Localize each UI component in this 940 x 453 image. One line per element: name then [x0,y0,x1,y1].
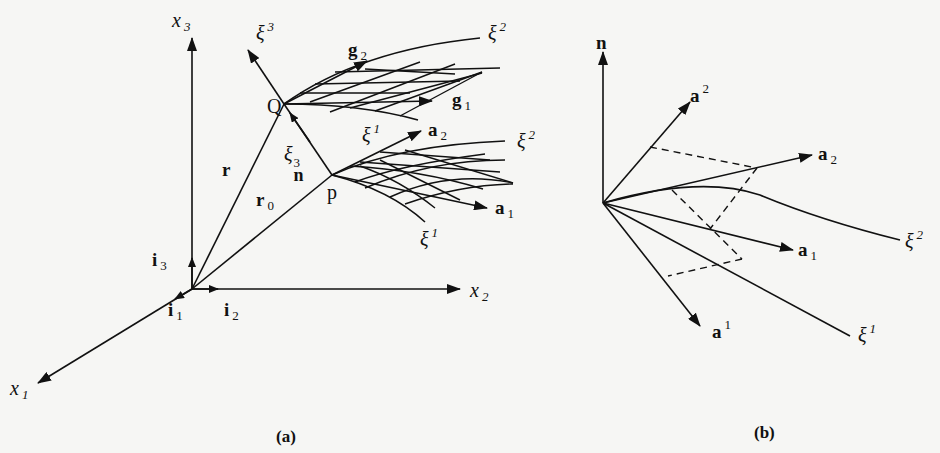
label-xi2-lower: ξ2 [517,128,535,151]
upper-xi1-edge [284,104,418,120]
point-p: p [327,182,337,202]
point-Q: Q [267,96,281,116]
label-xi3: ξ3 [256,20,274,43]
unit-vector-i1 [175,289,192,299]
b-vector-a-sup1 [603,203,700,326]
b-vector-a1 [603,203,793,250]
label-x2: x2 [470,280,488,303]
normal-vector-n [290,113,310,142]
label-i1: i1 [168,300,183,322]
label-xi2-upper: ξ2 [488,20,506,43]
label-a2: a2 [818,144,837,166]
label-i3: i3 [152,250,167,272]
lower-mesh [350,150,513,208]
label-g2: g2 [348,40,367,62]
label-a1-lower: a1 [495,198,514,220]
label-a1: a1 [798,240,817,262]
caption-a: (a) [276,428,296,445]
label-x1: x1 [10,378,28,401]
figure-canvas [0,0,940,453]
label-n: n [596,33,607,52]
label-i2: i2 [224,300,239,322]
label-a-sup2: a2 [690,82,709,105]
label-xi3-n: ξ3n [284,144,304,183]
label-xi1-upper: ξ1 [362,122,380,145]
label-r: r [222,160,230,179]
label-a2-lower: a2 [428,120,447,142]
label-r0: r0 [256,190,274,212]
label-g1: g1 [452,90,471,112]
label-xi1-b: ξ1 [858,322,876,345]
label-a-sup1: a1 [712,318,731,341]
label-x3: x3 [172,10,190,33]
label-xi1-lower: ξ1 [420,226,438,249]
label-xi2-b: ξ2 [905,228,923,251]
caption-b: (b) [754,424,775,441]
